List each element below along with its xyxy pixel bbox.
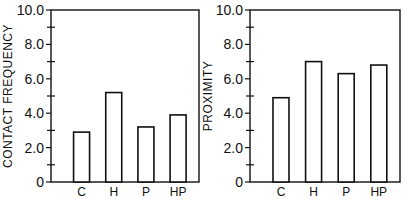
y-tick-label: 4.0 xyxy=(224,105,244,121)
x-tick-label: H xyxy=(109,185,118,199)
bar-c xyxy=(273,98,289,182)
y-tick-label: 6.0 xyxy=(25,71,45,87)
bar-p xyxy=(138,127,154,182)
y-tick-label: 4.0 xyxy=(25,105,45,121)
x-tick-label: P xyxy=(142,185,150,199)
x-tick-label: C xyxy=(77,185,86,199)
bar-c xyxy=(74,132,90,182)
chart-panel-1: 02.04.06.08.010.0CONTACT FREQUENCYCHPHP xyxy=(1,2,199,199)
x-tick-label: P xyxy=(342,185,350,199)
y-tick-label: 6.0 xyxy=(224,71,244,87)
bar-h xyxy=(306,62,322,182)
bar-hp xyxy=(371,65,387,182)
chart-panel-2: 02.04.06.08.010.0PROXIMITYCHPHP xyxy=(201,2,400,199)
bar-charts: 02.04.06.08.010.0CONTACT FREQUENCYCHPHP0… xyxy=(0,0,407,199)
y-tick-label: 10.0 xyxy=(17,2,44,18)
y-tick-label: 0 xyxy=(36,174,44,190)
bar-p xyxy=(338,74,354,182)
bar-hp xyxy=(170,115,186,182)
x-tick-label: H xyxy=(309,185,318,199)
bar-h xyxy=(106,93,122,182)
y-axis-label: PROXIMITY xyxy=(201,61,215,132)
y-tick-label: 0 xyxy=(235,174,243,190)
y-tick-label: 10.0 xyxy=(216,2,243,18)
y-tick-label: 2.0 xyxy=(25,140,45,156)
y-tick-label: 8.0 xyxy=(224,36,244,52)
y-tick-label: 8.0 xyxy=(25,36,45,52)
y-axis-label: CONTACT FREQUENCY xyxy=(1,24,15,168)
x-tick-label: HP xyxy=(370,185,387,199)
x-tick-label: HP xyxy=(170,185,187,199)
y-tick-label: 2.0 xyxy=(224,140,244,156)
x-tick-label: C xyxy=(277,185,286,199)
